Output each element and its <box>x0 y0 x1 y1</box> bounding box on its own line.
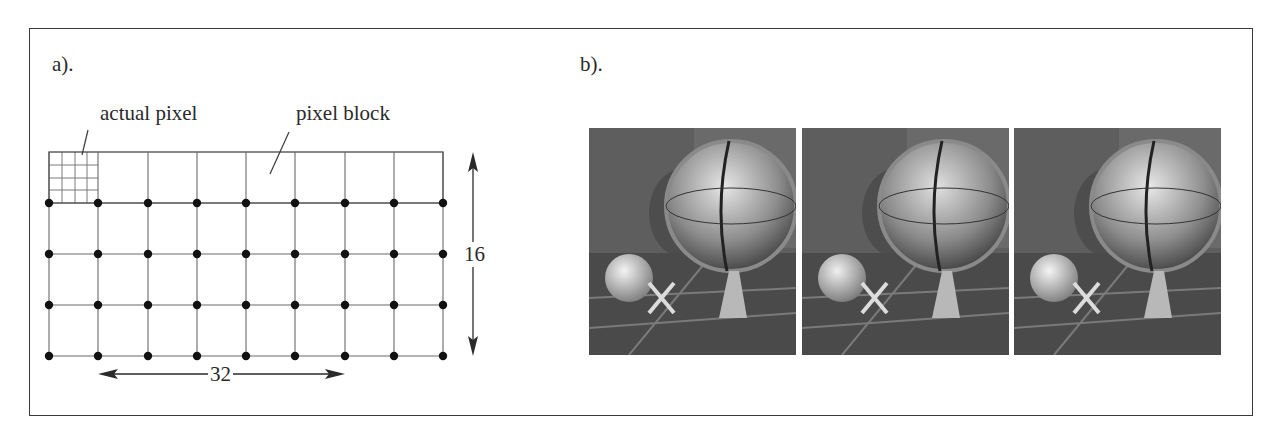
globe-image-1 <box>589 128 796 355</box>
height-dimension-label: 16 <box>462 242 487 267</box>
panel-b-label: b). <box>580 52 603 77</box>
globe-image-2 <box>802 128 1009 355</box>
width-dimension-label: 32 <box>208 362 233 387</box>
globe-image-3 <box>1014 128 1221 355</box>
